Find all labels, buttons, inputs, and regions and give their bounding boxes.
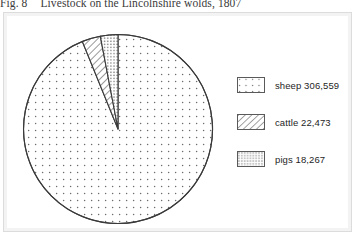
legend-item-cattle: cattle 22,473 <box>237 113 349 131</box>
figure-plate-inner: sheep 306,559 cattle 22,473 pigs 18,267 <box>8 17 347 227</box>
figure-caption: Fig. 8Livestock on the Lincolnshire wold… <box>0 0 359 11</box>
legend-label-pigs: pigs 18,267 <box>275 154 325 165</box>
figure-number: Fig. 8 <box>0 0 27 9</box>
pie-chart-svg <box>20 31 216 227</box>
legend-item-pigs: pigs 18,267 <box>237 150 349 168</box>
pie-chart <box>20 31 216 227</box>
figure-plate: sheep 306,559 cattle 22,473 pigs 18,267 <box>3 12 352 232</box>
legend-item-sheep: sheep 306,559 <box>237 76 349 94</box>
legend-swatch-cattle <box>237 114 265 130</box>
figure-caption-text: Livestock on the Lincolnshire wolds, 180… <box>40 0 241 9</box>
legend-swatch-sheep <box>237 77 265 93</box>
legend-label-sheep: sheep 306,559 <box>275 80 339 91</box>
legend-swatch-pigs <box>237 151 265 167</box>
chart-legend: sheep 306,559 cattle 22,473 pigs 18,267 <box>237 76 349 187</box>
legend-label-cattle: cattle 22,473 <box>275 117 331 128</box>
